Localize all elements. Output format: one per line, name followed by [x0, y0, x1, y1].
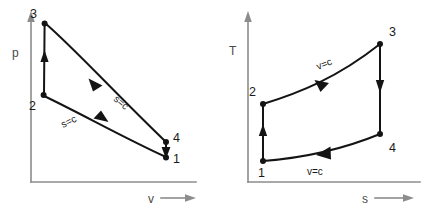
ts-state-label-3: 3 [389, 25, 396, 39]
ts-diagram-panel: T s v=c v=c 3 2 [217, 0, 435, 214]
pv-diagram-panel: p v s=c s=c 3 2 [0, 0, 218, 214]
ts-y-axis-label: T [229, 44, 237, 58]
pv-state-label-4: 4 [173, 131, 180, 145]
pv-state-label-1: 1 [173, 152, 180, 166]
pv-state-label-2: 2 [29, 99, 36, 113]
ts-state-point-2-dot [260, 101, 266, 107]
ts-state-label-2: 2 [249, 85, 256, 99]
ts-process-3-4-arrowhead [376, 80, 384, 93]
pv-state-point-2-dot [41, 92, 47, 98]
ts-state-point-4-dot [377, 131, 383, 137]
ts-process-4-1-label: v=c [307, 166, 323, 177]
pv-process-3-4-label: s=c [112, 93, 131, 112]
ts-process-2-3-arrowhead [315, 80, 330, 92]
ts-state-label-4: 4 [389, 141, 396, 155]
pv-state-point-1-dot [163, 155, 169, 161]
figure-canvas: p v s=c s=c 3 2 [0, 0, 435, 214]
ts-process-4-1-curve [263, 134, 380, 161]
pv-process-2-3-arrowhead [40, 50, 48, 62]
ts-x-axis-label: s [362, 192, 368, 206]
pv-state-point-4-dot [163, 139, 169, 145]
pv-diagram-svg: p v s=c s=c 3 2 [0, 0, 218, 214]
ts-y-axis-arrowhead [244, 11, 252, 22]
pv-process-1-2-curve [42, 95, 166, 157]
pv-state-point-3-dot [42, 21, 48, 27]
ts-state-point-3-dot [377, 41, 383, 47]
pv-state-label-3: 3 [30, 7, 37, 21]
pv-x-axis-label: v [148, 192, 154, 206]
pv-y-axis-label: p [12, 46, 19, 60]
ts-state-label-1: 1 [258, 166, 265, 180]
ts-process-2-3-label: v=c [315, 56, 334, 72]
ts-x-axis-label-arrowhead [403, 194, 414, 202]
ts-state-point-1-dot [260, 158, 266, 164]
ts-process-1-2-arrowhead [259, 124, 267, 136]
pv-process-3-4-arrowhead [89, 79, 103, 92]
pv-x-axis-label-arrowhead [185, 194, 196, 202]
ts-diagram-svg: T s v=c v=c 3 2 [217, 0, 435, 214]
pv-process-1-2-arrowhead [94, 111, 109, 123]
ts-process-2-3-curve [263, 44, 380, 104]
pv-process-1-2-label: s=c [59, 113, 78, 130]
